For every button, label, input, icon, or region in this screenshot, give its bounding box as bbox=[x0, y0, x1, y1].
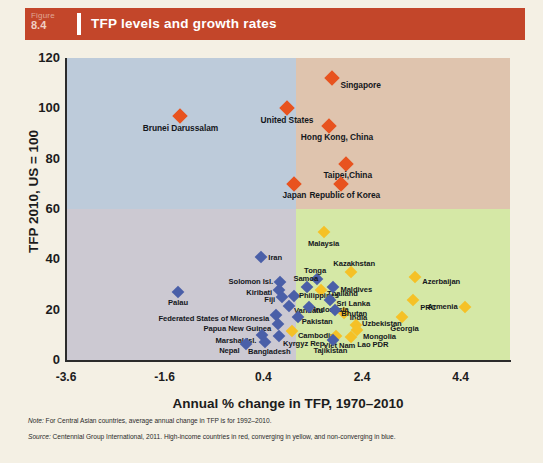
data-point-label: Singapore bbox=[340, 80, 381, 90]
data-point-label: Brunei Darussalam bbox=[143, 123, 219, 133]
note-prefix: Note: bbox=[28, 417, 44, 424]
data-point-label: Tajikistan bbox=[313, 345, 347, 354]
x-tick-label: -3.6 bbox=[36, 370, 96, 384]
source-prefix: Source: bbox=[28, 433, 51, 440]
data-point-label: Palau bbox=[168, 298, 188, 307]
data-point-label: Taipei,China bbox=[323, 170, 372, 180]
data-point-label: Samoa bbox=[293, 274, 318, 283]
x-tick-label: 0.4 bbox=[233, 370, 293, 384]
data-point-label: Uzbekistan bbox=[362, 318, 402, 327]
plot-area: Brunei DarussalamUnited StatesSingaporeH… bbox=[66, 58, 510, 360]
figure-header-band: Figure 8.4 TFP levels and growth rates bbox=[25, 8, 525, 40]
figure-page: Figure 8.4 TFP levels and growth rates B… bbox=[0, 0, 543, 463]
x-tick-label: 2.4 bbox=[332, 370, 392, 384]
x-axis-line bbox=[65, 360, 511, 362]
y-axis-line bbox=[65, 58, 67, 361]
data-point-label: Nepal bbox=[219, 345, 239, 354]
x-tick-label: -1.6 bbox=[135, 370, 195, 384]
data-point-label: Solomon Isl. bbox=[229, 276, 274, 285]
x-tick-label: 4.4 bbox=[431, 370, 491, 384]
data-point-label: Kazakhstan bbox=[333, 258, 375, 267]
data-point-label: Armenia bbox=[428, 302, 458, 311]
y-tick-label: 0 bbox=[18, 352, 60, 367]
data-point-label: Azerbaijan bbox=[422, 276, 460, 285]
source-line: Source: Centennial Group International, … bbox=[28, 433, 528, 442]
plot-wrapper: Brunei DarussalamUnited StatesSingaporeH… bbox=[0, 44, 543, 374]
source-text: Centennial Group International, 2011. Hi… bbox=[51, 433, 396, 440]
x-axis-label: Annual % change in TFP, 1970–2010 bbox=[66, 396, 510, 411]
data-point-label: Pakistan bbox=[302, 317, 333, 326]
data-point-label: Maldives bbox=[340, 285, 372, 294]
figure-badge: Figure 8.4 bbox=[31, 12, 73, 38]
quadrant-top-left bbox=[66, 58, 296, 209]
data-point-label: Malaysia bbox=[308, 238, 339, 247]
note-text: For Central Asian countries, average ann… bbox=[44, 417, 272, 424]
data-point-label: Hong Kong, China bbox=[301, 132, 373, 142]
data-point-label: Lao PDR bbox=[357, 340, 388, 349]
data-point-label: United States bbox=[261, 115, 314, 125]
figure-notes: Note: For Central Asian countries, avera… bbox=[28, 417, 528, 448]
data-point-label: Japan bbox=[282, 190, 306, 200]
note-line: Note: For Central Asian countries, avera… bbox=[28, 417, 528, 426]
data-point-label: Iran bbox=[268, 252, 282, 261]
data-point-label: Fiji bbox=[264, 295, 275, 304]
data-point-label: Federated States of Micronesia bbox=[158, 313, 269, 322]
data-point-label: Republic of Korea bbox=[309, 190, 380, 200]
data-point-label: Bangladesh bbox=[248, 347, 291, 356]
figure-badge-number: 8.4 bbox=[31, 20, 73, 32]
y-axis-label: TFP 2010, US = 100 bbox=[26, 77, 41, 307]
figure-title: TFP levels and growth rates bbox=[91, 16, 277, 31]
figure-divider-rule bbox=[77, 13, 81, 35]
data-point-label: Bhutan bbox=[341, 308, 367, 317]
y-tick-label: 120 bbox=[18, 50, 60, 65]
